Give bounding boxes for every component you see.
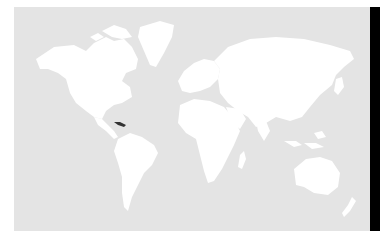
region-australia[interactable] xyxy=(294,157,340,195)
region-arctic-islands[interactable] xyxy=(90,25,132,41)
side-bar xyxy=(370,7,380,231)
region-central-america[interactable] xyxy=(94,117,118,139)
region-europe[interactable] xyxy=(178,59,220,93)
region-greenland[interactable] xyxy=(138,21,174,67)
world-map[interactable] xyxy=(14,7,370,231)
world-map-svg xyxy=(14,7,370,231)
region-new-zealand[interactable] xyxy=(342,197,356,217)
region-cuba[interactable] xyxy=(114,122,126,127)
region-indonesia[interactable] xyxy=(284,131,326,149)
region-south-america[interactable] xyxy=(114,133,158,211)
region-japan[interactable] xyxy=(334,77,344,95)
region-north-america[interactable] xyxy=(36,37,138,119)
region-madagascar[interactable] xyxy=(238,151,246,169)
